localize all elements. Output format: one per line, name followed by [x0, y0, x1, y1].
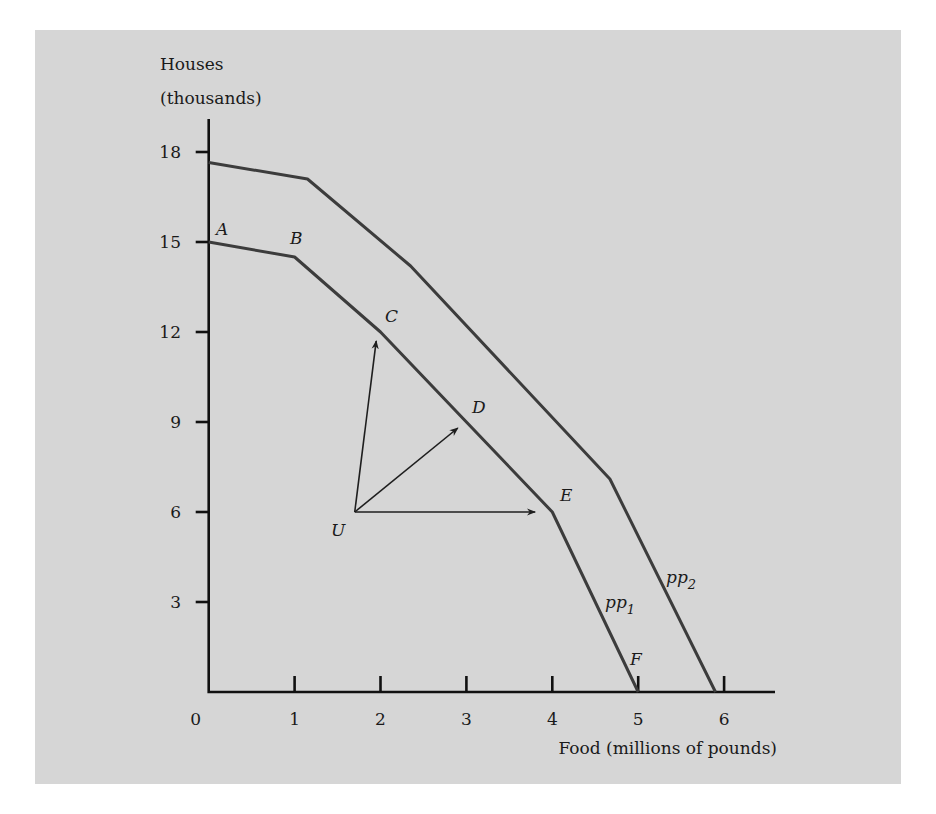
- pp2-curve-label: pp2: [666, 567, 696, 592]
- x-tick-label: 3: [461, 709, 472, 729]
- y-tick-label: 3: [170, 592, 181, 612]
- pp1-label-subscript: 1: [627, 602, 635, 617]
- y-axis-title-line1: Houses: [160, 54, 224, 74]
- x-tick-label: 2: [375, 709, 386, 729]
- x-tick-label: 5: [633, 709, 644, 729]
- y-axis-ticks: 369121518: [159, 142, 208, 612]
- point-label-u: U: [331, 520, 346, 540]
- pp2-label-subscript: 2: [687, 577, 696, 592]
- production-possibilities-chart: Houses (thousands) Food (millions of pou…: [0, 0, 936, 814]
- y-tick-label: 6: [170, 502, 181, 522]
- point-label-b: B: [289, 228, 303, 248]
- y-tick-label: 9: [170, 412, 181, 432]
- y-tick-label: 15: [159, 232, 181, 252]
- x-tick-label: 1: [289, 709, 300, 729]
- y-tick-label: 18: [159, 142, 181, 162]
- point-label-c: C: [385, 306, 398, 326]
- arrow-from-u: [355, 428, 458, 512]
- point-label-f: F: [629, 649, 643, 669]
- pp1-label-base: pp: [605, 592, 627, 612]
- arrows-from-u: [355, 341, 535, 512]
- x-tick-label: 4: [547, 709, 558, 729]
- x-axis-ticks: 0123456: [190, 676, 729, 729]
- y-axis-title-line2: (thousands): [160, 88, 262, 108]
- y-tick-label: 12: [159, 322, 181, 342]
- x-tick-label: 6: [719, 709, 730, 729]
- point-label-a: A: [214, 219, 228, 239]
- arrow-from-u: [355, 341, 376, 512]
- point-label-d: D: [471, 397, 486, 417]
- axis-lines: [209, 119, 775, 692]
- x-tick-label: 0: [190, 709, 201, 729]
- pp2-label-base: pp: [666, 567, 688, 587]
- pp2-curve: [209, 163, 716, 693]
- axes: [209, 119, 775, 692]
- pp1-curve: [209, 242, 639, 692]
- point-label-e: E: [559, 485, 573, 505]
- pp1-curve-label: pp1: [605, 592, 635, 617]
- x-axis-title: Food (millions of pounds): [558, 738, 777, 758]
